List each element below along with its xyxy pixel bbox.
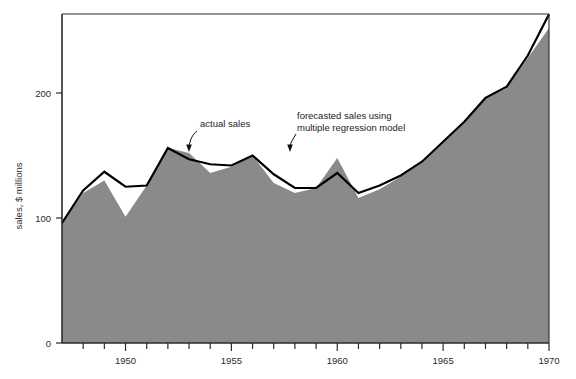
y-tick-label: 200 (35, 88, 51, 99)
chart-figure: 0100200 19501955196019651970 sales, $ mi… (0, 0, 576, 379)
x-tick-label: 1970 (538, 355, 559, 366)
annotation-forecasted-sales-label-line1: forecasted sales using (297, 110, 392, 121)
y-tick-label: 100 (35, 213, 51, 224)
x-tick-label: 1955 (221, 355, 242, 366)
y-axis-ticks: 0100200 (35, 88, 62, 349)
y-tick-label: 0 (46, 338, 51, 349)
x-tick-label: 1950 (115, 355, 136, 366)
sales-forecast-area-chart: 0100200 19501955196019651970 sales, $ mi… (0, 0, 576, 379)
annotation-actual-sales-label: actual sales (200, 118, 250, 129)
x-tick-label: 1960 (327, 355, 348, 366)
y-axis-title: sales, $ millions (13, 162, 24, 229)
x-axis-ticks: 19501955196019651970 (83, 343, 559, 366)
annotation-forecasted-sales-label-line2: multiple regression model (297, 122, 405, 133)
x-tick-label: 1965 (433, 355, 454, 366)
